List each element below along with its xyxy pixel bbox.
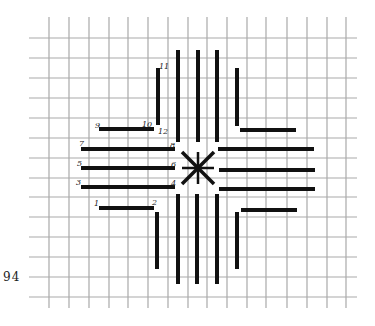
stitch-diagram: 910121178563412 [0, 0, 375, 326]
stitch-order-label: 8 [170, 141, 175, 150]
stitch-order-label: 7 [79, 139, 85, 148]
stitch-order-label: 1 [94, 199, 99, 208]
stitch-order-label: 11 [159, 62, 169, 71]
stitch-order-label: 2 [151, 198, 157, 207]
stitch-order-label: 3 [76, 178, 81, 187]
stitch-order-label: 12 [158, 127, 168, 136]
stitch-order-label: 4 [170, 179, 176, 188]
stitch-pattern [81, 50, 315, 284]
stitch-order-label: 6 [171, 160, 176, 169]
stitch-order-label: 9 [95, 121, 100, 130]
stitch-order-label: 10 [142, 120, 152, 129]
stitch-order-label: 5 [77, 159, 82, 168]
page-number: 94 [3, 270, 20, 284]
